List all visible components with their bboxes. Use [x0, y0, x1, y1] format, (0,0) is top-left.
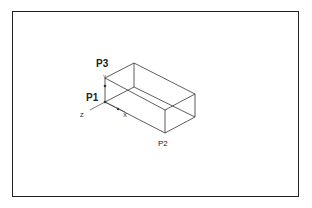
axis-label-z: Z [80, 112, 84, 118]
label-p1: P1 [86, 92, 99, 103]
p1-point [104, 101, 107, 104]
y-axis-marker [104, 85, 107, 88]
axis-lines [90, 102, 125, 112]
label-p2: P2 [158, 139, 168, 148]
box-edges [105, 63, 195, 133]
x-axis-marker [117, 108, 119, 110]
axis-label-x: X [123, 112, 127, 118]
isometric-box-diagram: P3 P1 P2 Y Z X [0, 0, 312, 208]
label-p3: P3 [96, 58, 109, 69]
